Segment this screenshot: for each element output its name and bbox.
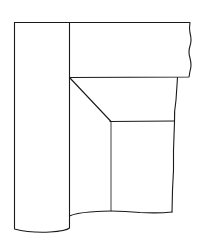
diagram-canvas <box>0 0 205 245</box>
line-drawing <box>0 0 205 245</box>
lower-wall-bottom <box>70 211 173 216</box>
inner-panel-top <box>110 121 174 122</box>
diagonal-bevel <box>70 78 112 122</box>
lower-wall-right-edge <box>172 78 178 213</box>
left-column <box>15 23 70 233</box>
top-bar <box>15 23 192 78</box>
